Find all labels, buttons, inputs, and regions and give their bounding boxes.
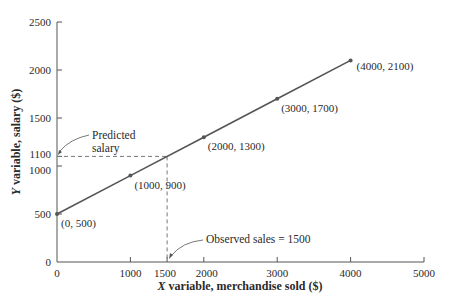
x-tick-label: 1000 (119, 267, 142, 279)
x-axis-title: X variable, merchandise sold ($) (157, 279, 323, 293)
data-point (55, 212, 59, 216)
predicted-salary-arrow (60, 135, 89, 151)
data-point-label: (0, 500) (61, 217, 96, 230)
chart-canvas: 0500100011001500200025000100015002000300… (0, 0, 450, 308)
salary-line-chart: 0500100011001500200025000100015002000300… (0, 0, 450, 308)
y-tick-label: 0 (46, 256, 52, 268)
predicted-salary-label: salary (92, 142, 120, 155)
arrow-head-icon (58, 150, 62, 155)
data-point-label: (1000, 900) (134, 179, 186, 192)
x-tick-label: 5000 (413, 267, 436, 279)
y-tick-label: 2500 (29, 16, 52, 28)
y-tick-label: 500 (35, 208, 52, 220)
x-tick-label: 0 (54, 267, 60, 279)
data-point (128, 174, 132, 178)
data-point (275, 97, 279, 101)
y-tick-label: 1500 (29, 112, 52, 124)
observed-sales-arrow (171, 240, 203, 256)
y-tick-label: 1100 (29, 148, 51, 160)
data-point-label: (3000, 1700) (281, 102, 338, 115)
y-tick-label: 2000 (29, 64, 52, 76)
data-point-label: (4000, 2100) (357, 60, 414, 73)
data-point (202, 135, 206, 139)
data-point (349, 58, 353, 62)
y-tick-label: 1000 (29, 164, 52, 176)
x-tick-label: 4000 (340, 267, 363, 279)
data-point-label: (2000, 1300) (208, 140, 265, 153)
predicted-salary-label: Predicted (92, 129, 136, 141)
dashed-guides (57, 156, 167, 262)
y-axis-title: Y variable, salary ($) (9, 89, 23, 196)
x-tick-label: 3000 (266, 267, 289, 279)
observed-sales-label: Observed sales = 1500 (206, 233, 311, 245)
x-tick-label: 2000 (196, 267, 219, 279)
x-tick-label: 1500 (154, 267, 177, 279)
